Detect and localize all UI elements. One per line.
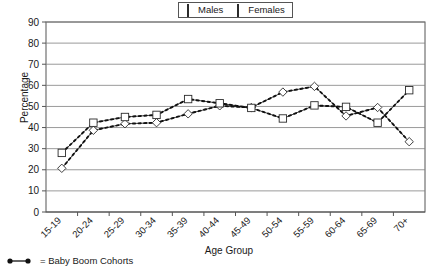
- x-tick-label: 70+: [391, 214, 410, 233]
- y-tick-label: 90: [28, 17, 40, 28]
- x-axis-label-text: Age Group: [205, 245, 253, 256]
- series-line-females: [62, 90, 409, 153]
- x-tick-label: 35-39: [165, 215, 190, 240]
- x-tick-label: 45-49: [228, 215, 253, 240]
- data-point-males: [184, 110, 192, 118]
- data-point-females: [406, 86, 413, 93]
- data-point-females: [342, 103, 349, 110]
- line-chart: 010203040506070809015-1920-2425-2930-343…: [0, 0, 434, 273]
- data-point-females: [90, 119, 97, 126]
- plot-frame: [46, 22, 425, 212]
- chart-footnote: = Baby Boom Cohorts: [6, 255, 133, 266]
- data-point-females: [216, 100, 223, 107]
- x-tick-label: 30-34: [133, 215, 158, 240]
- y-tick-label: 10: [28, 185, 40, 196]
- data-point-females: [58, 149, 65, 156]
- data-point-females: [374, 119, 381, 126]
- footnote-text: = Baby Boom Cohorts: [40, 255, 133, 266]
- y-tick-label: 80: [28, 38, 40, 49]
- x-tick-label: 60-64: [322, 215, 347, 240]
- dotted-line-marker-icon: [6, 256, 36, 266]
- chart-canvas: 010203040506070809015-1920-2425-2930-343…: [0, 0, 434, 273]
- data-point-females: [279, 115, 286, 122]
- data-point-males: [152, 119, 160, 127]
- x-tick-label: 20-24: [70, 215, 95, 240]
- x-tick-label: 65-69: [354, 215, 379, 240]
- y-tick-label: 70: [28, 59, 40, 70]
- data-point-males: [279, 88, 287, 96]
- data-point-females: [184, 95, 191, 102]
- data-point-females: [311, 102, 318, 109]
- data-point-females: [248, 104, 255, 111]
- y-tick-label: 60: [28, 80, 40, 91]
- y-tick-label: 40: [28, 122, 40, 133]
- y-axis-label: Percentage: [19, 53, 30, 143]
- baby-boom-overlay-females: [62, 90, 409, 153]
- x-tick-label: 55-59: [291, 215, 316, 240]
- y-tick-label: 30: [28, 143, 40, 154]
- data-point-females: [153, 111, 160, 118]
- x-tick-label: 50-54: [259, 215, 284, 240]
- y-tick-label: 50: [28, 101, 40, 112]
- x-tick-label: 15-19: [38, 215, 63, 240]
- data-point-females: [121, 113, 128, 120]
- y-tick-label: 20: [28, 164, 40, 175]
- x-tick-label: 25-29: [101, 215, 126, 240]
- y-tick-label: 0: [33, 207, 39, 218]
- x-tick-label: 40-44: [196, 215, 221, 240]
